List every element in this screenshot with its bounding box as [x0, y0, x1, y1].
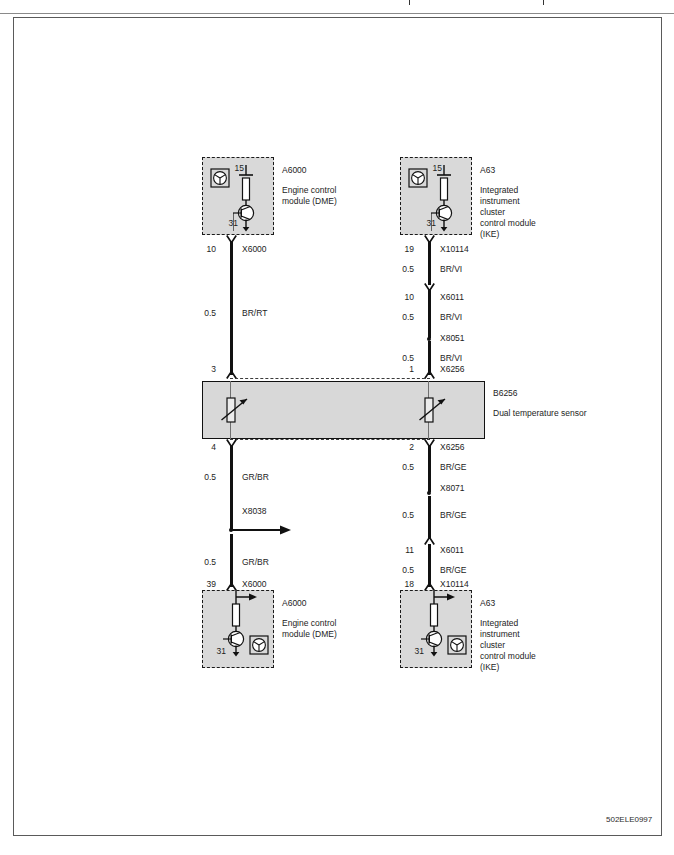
wire-connector-right-bottom: X10114 — [440, 579, 469, 590]
wire-pin-right-sensor-out: 2 — [388, 442, 414, 453]
wire-gauge-right-seg1: 0.5 — [388, 264, 414, 275]
wire-left-lower-seg2 — [230, 534, 233, 587]
internal-circuit-top-left — [233, 165, 273, 233]
wire-color-right-lower-3: BR/GE — [440, 565, 466, 576]
wire-connector-left-bottom: X6000 — [242, 579, 267, 590]
control-unit-icon — [447, 635, 467, 655]
wire-gauge-left-upper: 0.5 — [190, 308, 216, 319]
module-description-bottom-right-line3: cluster — [480, 640, 505, 652]
wire-color-right-lower-2: BR/GE — [440, 510, 466, 521]
wire-color-right-seg2: BR/VI — [440, 312, 462, 323]
thermistor-symbol-right — [418, 392, 452, 428]
pin-label-top-left-31: 31 — [208, 218, 238, 229]
wire-gauge-left-lower-2: 0.5 — [190, 557, 216, 568]
pin-label-top-right-31: 31 — [406, 218, 436, 229]
wire-color-left-lower-2: GR/BR — [242, 557, 269, 568]
wire-gauge-right-lower-3: 0.5 — [388, 565, 414, 576]
wire-right-lower-seg3 — [428, 544, 431, 587]
wire-left-lower-seg1 — [230, 446, 233, 529]
wire-connector-right-x8071: X8071 — [440, 483, 465, 494]
thermistor-symbol-left — [220, 392, 254, 428]
wire-connector-right-x10114-top: X10114 — [440, 244, 469, 255]
pin-label-top-left-15: 15 — [214, 163, 244, 174]
wire-connector-left-upper: X6000 — [242, 244, 267, 255]
wire-right-lower-seg2 — [428, 496, 431, 539]
internal-circuit-top-right — [431, 165, 471, 233]
wire-connector-right-x6256-bottom: X6256 — [440, 442, 465, 453]
wire-color-right-seg3: BR/VI — [440, 353, 462, 364]
wire-connector-left-x8038: X8038 — [242, 506, 267, 517]
module-description-top-left-line2: module (DME) — [282, 196, 337, 208]
module-designation-top-left: A6000 — [282, 165, 307, 177]
diagram-id-code: 502ELE0997 — [606, 815, 652, 824]
connector-symbol-right-sensor-in — [424, 370, 435, 378]
module-description-top-left-line1: Engine control — [282, 185, 336, 197]
module-description-top-right-line2: instrument — [480, 196, 520, 208]
connector-symbol-right-bottom — [424, 582, 435, 590]
wire-pin-left-bottom: 39 — [190, 579, 216, 590]
crop-line — [0, 13, 674, 14]
module-designation-bottom-left: A6000 — [282, 598, 307, 610]
pin-label-bottom-right-31: 31 — [398, 646, 424, 657]
module-description-bottom-right-line4: control module — [480, 651, 536, 663]
crop-tick-left — [409, 0, 410, 5]
module-designation-bottom-right: A63 — [480, 598, 495, 610]
module-description-top-right-line5: (IKE) — [480, 229, 499, 241]
wire-left-upper — [230, 242, 233, 375]
wire-gauge-right-seg2: 0.5 — [388, 312, 414, 323]
pin-label-bottom-left-31: 31 — [200, 646, 226, 657]
pin-label-top-right-15: 15 — [412, 163, 442, 174]
module-description-bottom-left-line2: module (DME) — [282, 629, 337, 641]
module-description-bottom-right-line1: Integrated — [480, 618, 518, 630]
sensor-description: Dual temperature sensor — [493, 408, 587, 420]
module-description-top-right-line1: Integrated — [480, 185, 518, 197]
module-description-bottom-right-line5: (IKE) — [480, 662, 499, 674]
wire-connector-right-x8051: X8051 — [440, 333, 465, 344]
module-description-top-right-line3: cluster — [480, 207, 505, 219]
wire-pin-left-sensor-in: 3 — [190, 364, 216, 375]
module-description-bottom-left-line1: Engine control — [282, 618, 336, 630]
wire-pin-right-x6011-top: 10 — [388, 292, 414, 303]
wire-color-right-seg1: BR/VI — [440, 264, 462, 275]
crop-tick-right — [543, 0, 544, 5]
wire-pin-right-sensor-in: 1 — [388, 364, 414, 375]
wire-connector-right-x6011-top: X6011 — [440, 292, 464, 303]
wire-color-left-upper: BR/RT — [242, 308, 267, 319]
wire-gauge-right-lower-1: 0.5 — [388, 462, 414, 473]
sensor-designation: B6256 — [493, 388, 518, 400]
module-designation-top-right: A63 — [480, 165, 495, 177]
wire-pin-left-sensor-out: 4 — [190, 442, 216, 453]
wire-right-seg1 — [428, 242, 431, 285]
wire-pin-right-bottom: 18 — [388, 579, 414, 590]
wire-color-left-lower-1: GR/BR — [242, 472, 269, 483]
module-description-top-right-line4: control module — [480, 218, 536, 230]
splice-dot-x8071 — [427, 491, 431, 495]
module-description-bottom-right-line2: instrument — [480, 629, 520, 641]
wire-pin-left-upper: 10 — [190, 244, 216, 255]
branch-arrow-x8038 — [230, 524, 292, 536]
wire-pin-right-x6011-bottom: 11 — [388, 545, 414, 556]
connector-symbol-left-bottom — [226, 582, 237, 590]
wire-color-right-lower-1: BR/GE — [440, 462, 466, 473]
wire-right-seg2 — [428, 290, 431, 338]
wire-pin-right-upper: 19 — [388, 244, 414, 255]
control-unit-icon — [249, 635, 269, 655]
diagram-sheet: 15 31 A6000 Engine control module (DME) … — [13, 17, 662, 836]
wire-connector-right-x6256-top: X6256 — [440, 364, 465, 375]
connector-symbol-right-x6011-bottom — [424, 536, 435, 544]
wire-right-lower-seg1 — [428, 446, 431, 492]
wire-gauge-right-lower-2: 0.5 — [388, 510, 414, 521]
wire-gauge-left-lower-1: 0.5 — [190, 472, 216, 483]
wire-gauge-right-seg3: 0.5 — [388, 353, 414, 364]
wire-connector-right-x6011-bottom: X6011 — [440, 545, 464, 556]
connector-symbol-left-sensor-in — [226, 370, 237, 378]
